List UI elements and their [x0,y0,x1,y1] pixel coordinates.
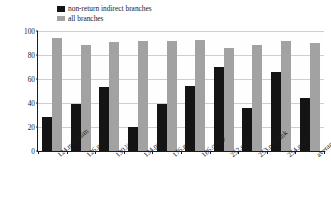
x-axis-labels: 124.m88ksim126.gcc130.li134.perl176.gcc1… [37,153,324,201]
legend-label-series-1: all branches [68,14,104,24]
bar [252,45,262,151]
bar [224,48,234,151]
x-tick-label: 253.perlbmk [257,153,262,159]
bar-group [210,31,239,151]
y-tick-label: 80 [28,51,35,60]
x-tick-label: 254.gap [286,153,291,159]
x-tick-label: 176.gcc [171,153,176,159]
x-tick-label: 252.eon [229,153,234,159]
bar-group [181,31,210,151]
y-tick-label: 60 [28,75,35,84]
x-tick-label: average [315,153,320,159]
chart-legend: non-return indirect branches all branche… [57,4,152,23]
x-tick-label: 134.perl [142,153,147,159]
bar-group [295,31,324,151]
bar-chart: non-return indirect branches all branche… [0,0,331,201]
legend-swatch-icon [57,6,65,12]
x-tick-label: 126.gcc [85,153,90,159]
bar [310,43,320,151]
bar [167,41,177,151]
y-tick-label: 40 [28,99,35,108]
x-tick-label: 130.li [114,153,119,159]
bar [109,42,119,151]
x-tick-label: 186.crafty [200,153,205,159]
bar [42,117,52,151]
bar [138,41,148,151]
y-tick-label: 20 [28,123,35,132]
legend-item-series-0: non-return indirect branches [57,4,152,14]
legend-item-series-1: all branches [57,14,152,24]
bar-group [38,31,67,151]
x-tick-label: 124.m88ksim [56,153,61,159]
y-tick-label: 0 [31,147,35,156]
legend-label-series-0: non-return indirect branches [68,4,152,14]
bar [195,40,205,151]
bar [52,38,62,151]
bar-group [95,31,124,151]
bar-group [238,31,267,151]
bar-group [124,31,153,151]
legend-swatch-icon [57,16,65,22]
y-tick-label: 100 [24,27,35,36]
bar-group [152,31,181,151]
